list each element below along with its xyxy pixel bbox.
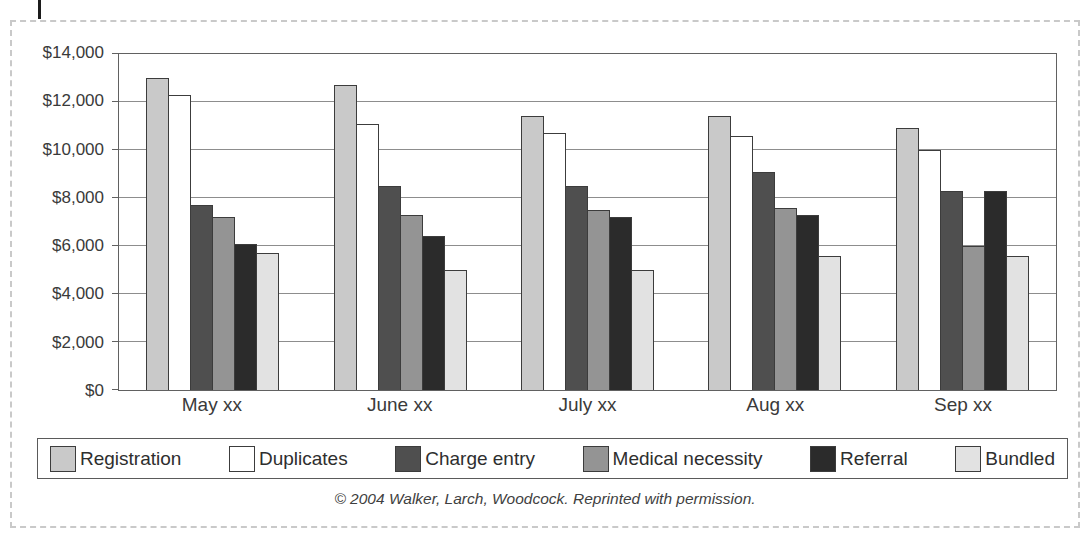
- bar-medical-necessity: [962, 246, 985, 390]
- legend-label: Referral: [840, 448, 908, 470]
- bar-bundled: [1006, 256, 1029, 390]
- legend-swatch: [229, 446, 255, 472]
- y-axis-label: $14,000: [43, 43, 104, 63]
- bar-duplicates: [356, 124, 379, 390]
- y-axis-label: $4,000: [52, 284, 104, 304]
- bar-duplicates: [543, 133, 566, 390]
- y-tick-mark: [112, 245, 119, 246]
- y-tick-mark: [112, 149, 119, 150]
- legend-swatch: [395, 446, 421, 472]
- bar-referral: [234, 244, 257, 390]
- bar-medical-necessity: [400, 215, 423, 390]
- legend-label: Registration: [80, 448, 181, 470]
- bar-referral: [984, 191, 1007, 390]
- bar-medical-necessity: [587, 210, 610, 390]
- y-tick-mark: [112, 389, 119, 390]
- legend-item-referral: Referral: [810, 446, 908, 472]
- figure-caption: © 2004 Walker, Larch, Woodcock. Reprinte…: [12, 490, 1078, 508]
- bar-registration: [708, 116, 731, 390]
- y-axis-label: $10,000: [43, 140, 104, 160]
- bar-group-may: [119, 54, 306, 390]
- y-tick-mark: [112, 341, 119, 342]
- bar-charge-entry: [378, 186, 401, 390]
- bar-charge-entry: [940, 191, 963, 390]
- bar-duplicates: [918, 150, 941, 390]
- x-axis-label: July xx: [494, 394, 682, 422]
- legend-swatch: [810, 446, 836, 472]
- bar-referral: [796, 215, 819, 390]
- x-axis-label: Sep xx: [869, 394, 1057, 422]
- bar-group-sep: [869, 54, 1056, 390]
- y-axis-label: $8,000: [52, 188, 104, 208]
- legend-swatch: [50, 446, 76, 472]
- bar-bundled: [444, 270, 467, 390]
- y-axis-label: $6,000: [52, 236, 104, 256]
- bar-bundled: [631, 270, 654, 390]
- y-tick-mark: [112, 53, 119, 54]
- bar-charge-entry: [190, 205, 213, 390]
- y-axis-label: $12,000: [43, 91, 104, 111]
- bar-medical-necessity: [774, 208, 797, 390]
- legend-label: Duplicates: [259, 448, 348, 470]
- x-axis: May xxJune xxJuly xxAug xxSep xx: [118, 394, 1057, 422]
- bar-referral: [422, 236, 445, 390]
- bar-bundled: [818, 256, 841, 390]
- page-margin-mark: [38, 0, 41, 19]
- y-axis-label: $2,000: [52, 333, 104, 353]
- bar-groups: [119, 54, 1056, 390]
- legend-label: Medical necessity: [613, 448, 763, 470]
- legend-label: Bundled: [985, 448, 1055, 470]
- bar-registration: [146, 78, 169, 390]
- y-axis: $0$2,000$4,000$6,000$8,000$10,000$12,000…: [12, 53, 110, 391]
- bar-group-june: [306, 54, 493, 390]
- bar-registration: [334, 85, 357, 390]
- bar-group-aug: [681, 54, 868, 390]
- legend-item-bundled: Bundled: [955, 446, 1055, 472]
- bar-medical-necessity: [212, 217, 235, 390]
- bar-charge-entry: [565, 186, 588, 390]
- bar-charge-entry: [752, 172, 775, 390]
- x-axis-label: May xx: [118, 394, 306, 422]
- x-axis-label: June xx: [306, 394, 494, 422]
- legend-swatch: [955, 446, 981, 472]
- bar-duplicates: [168, 95, 191, 390]
- legend-item-medical-necessity: Medical necessity: [583, 446, 763, 472]
- y-tick-mark: [112, 197, 119, 198]
- y-tick-mark: [112, 101, 119, 102]
- bar-registration: [521, 116, 544, 390]
- figure-panel: $0$2,000$4,000$6,000$8,000$10,000$12,000…: [10, 20, 1080, 528]
- y-axis-label: $0: [85, 381, 104, 401]
- bar-bundled: [256, 253, 279, 390]
- bar-referral: [609, 217, 632, 390]
- bar-registration: [896, 128, 919, 390]
- plot-area: [118, 53, 1057, 391]
- legend-item-charge-entry: Charge entry: [395, 446, 535, 472]
- legend-swatch: [583, 446, 609, 472]
- bar-group-july: [494, 54, 681, 390]
- legend-item-registration: Registration: [50, 446, 181, 472]
- x-axis-label: Aug xx: [681, 394, 869, 422]
- legend: RegistrationDuplicatesCharge entryMedica…: [37, 438, 1068, 479]
- y-tick-mark: [112, 293, 119, 294]
- legend-label: Charge entry: [425, 448, 535, 470]
- scanned-figure-page: $0$2,000$4,000$6,000$8,000$10,000$12,000…: [0, 0, 1091, 545]
- bar-duplicates: [730, 136, 753, 390]
- legend-item-duplicates: Duplicates: [229, 446, 348, 472]
